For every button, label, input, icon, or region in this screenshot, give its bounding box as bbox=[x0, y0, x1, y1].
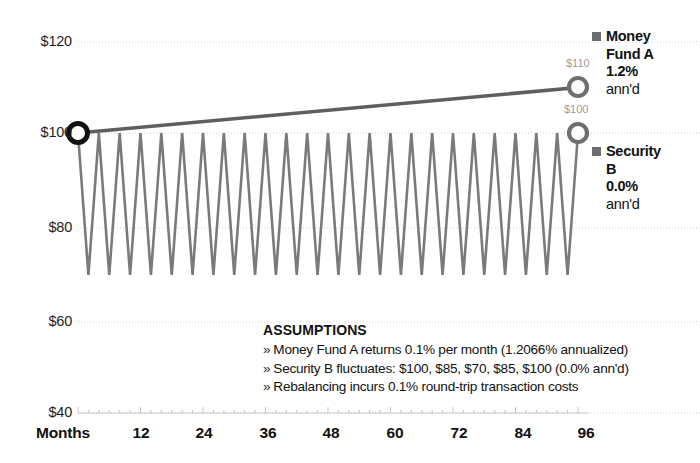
assumption-bullet-icon: » bbox=[263, 342, 270, 357]
assumptions-block: ASSUMPTIONS »Money Fund A returns 0.1% p… bbox=[263, 322, 603, 397]
legend-swatch-security-b-icon bbox=[592, 147, 601, 156]
x-axis-title: Months bbox=[36, 424, 90, 442]
x-tick-label-12: 12 bbox=[133, 424, 150, 442]
x-tick-label-96: 96 bbox=[578, 424, 595, 442]
x-axis: Months 12 24 36 48 60 72 84 96 bbox=[0, 424, 700, 454]
x-axis-minor-ticks bbox=[78, 407, 578, 413]
series-line-money-fund-a bbox=[78, 88, 578, 134]
chart-container: $120 $100 $80 $60 $40 Months 12 24 36 48… bbox=[0, 0, 700, 463]
legend-swatch-money-fund-a-icon bbox=[592, 32, 601, 41]
assumptions-title: ASSUMPTIONS bbox=[263, 322, 603, 338]
x-tick-label-72: 72 bbox=[451, 424, 468, 442]
x-tick-label-84: 84 bbox=[515, 424, 532, 442]
marker-money-fund-a-end bbox=[569, 78, 587, 96]
legend-label-security-b-line2: B bbox=[606, 161, 661, 179]
legend-item-security-b[interactable]: Security B 0.0% ann'd bbox=[592, 143, 696, 213]
assumption-item: »Security B fluctuates: $100, $85, $70, … bbox=[263, 360, 603, 379]
legend-label-security-b-line1: Security bbox=[606, 143, 661, 161]
assumption-text-1: Money Fund A returns 0.1% per month (1.2… bbox=[273, 342, 628, 357]
data-label-money-fund-a-end: $110 bbox=[566, 57, 590, 69]
x-tick-label-24: 24 bbox=[196, 424, 213, 442]
assumption-text-2: Security B fluctuates: $100, $85, $70, $… bbox=[273, 361, 628, 376]
legend-label-security-b-suffix: ann'd bbox=[606, 196, 661, 214]
y-axis: $120 $100 $80 $60 $40 bbox=[0, 0, 72, 463]
x-tick-label-60: 60 bbox=[387, 424, 404, 442]
legend-item-money-fund-a[interactable]: Money Fund A 1.2% ann'd bbox=[592, 28, 696, 98]
legend-label-money-fund-a-return: 1.2% bbox=[606, 63, 654, 81]
series-line-security-b bbox=[78, 133, 578, 275]
legend-label-money-fund-a-line1: Money bbox=[606, 28, 654, 46]
legend-label-money-fund-a-suffix: ann'd bbox=[606, 81, 654, 99]
y-tick-label-60: $60 bbox=[48, 313, 72, 329]
x-tick-label-36: 36 bbox=[260, 424, 277, 442]
assumption-text-3: Rebalancing incurs 0.1% round-trip trans… bbox=[273, 379, 578, 394]
legend-label-money-fund-a-line2: Fund A bbox=[606, 46, 654, 64]
y-tick-label-80: $80 bbox=[48, 219, 72, 235]
legend-label-security-b-return: 0.0% bbox=[606, 178, 661, 196]
assumption-bullet-icon: » bbox=[263, 361, 270, 376]
data-label-security-b-end: $100 bbox=[564, 103, 588, 115]
assumption-bullet-icon: » bbox=[263, 379, 270, 394]
assumption-item: »Rebalancing incurs 0.1% round-trip tran… bbox=[263, 378, 603, 397]
y-tick-label-40: $40 bbox=[48, 404, 72, 420]
assumption-item: »Money Fund A returns 0.1% per month (1.… bbox=[263, 341, 603, 360]
y-tick-label-120: $120 bbox=[41, 33, 72, 49]
x-tick-label-48: 48 bbox=[323, 424, 340, 442]
y-tick-label-100: $100 bbox=[41, 124, 72, 140]
marker-security-b-end bbox=[569, 124, 587, 142]
